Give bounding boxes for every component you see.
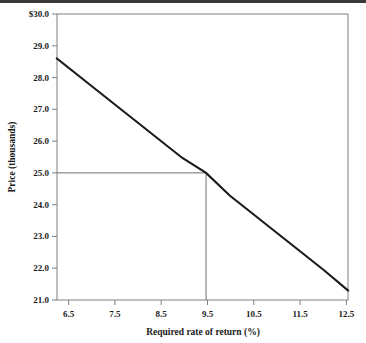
price-vs-required-return-chart: $30.0 29.0 28.0 27.0 26.0 25.0 24.0 23.0…	[0, 0, 366, 343]
y-axis-tick-labels: $30.0 29.0 28.0 27.0 26.0 25.0 24.0 23.0…	[29, 9, 50, 305]
x-tick-label: 11.5	[292, 309, 308, 319]
x-axis-title: Required rate of return (%)	[146, 327, 260, 338]
plot-frame	[57, 14, 348, 300]
x-tick-label: 7.5	[109, 309, 121, 319]
y-tick-label: 26.0	[33, 136, 49, 146]
y-tick-label: $30.0	[29, 9, 50, 19]
y-axis-ticks	[52, 14, 57, 300]
x-tick-label: 8.5	[156, 309, 168, 319]
y-tick-label: 28.0	[33, 73, 49, 83]
y-tick-label: 21.0	[33, 295, 49, 305]
x-tick-label: 9.5	[202, 309, 214, 319]
y-tick-label: 27.0	[33, 104, 49, 114]
y-tick-label: 24.0	[33, 200, 49, 210]
y-tick-label: 23.0	[33, 231, 49, 241]
x-tick-label: 10.5	[246, 309, 262, 319]
y-tick-label: 29.0	[33, 41, 49, 51]
y-tick-label: 25.0	[33, 168, 49, 178]
x-tick-label: 12.5	[339, 309, 355, 319]
x-tick-label: 6.5	[63, 309, 75, 319]
x-axis-tick-labels: 6.5 7.5 8.5 9.5 10.5 11.5 12.5	[63, 309, 355, 319]
y-axis-title: Price (thousands)	[7, 122, 18, 193]
chart-figure: $30.0 29.0 28.0 27.0 26.0 25.0 24.0 23.0…	[0, 0, 366, 343]
y-tick-label: 22.0	[33, 263, 49, 273]
x-axis-ticks	[69, 300, 347, 305]
